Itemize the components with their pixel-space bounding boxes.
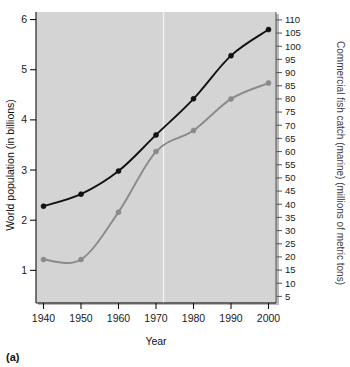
x-tick-label: 2000 (257, 312, 281, 324)
y-axis-title: World population (in billions) (4, 99, 16, 231)
y2-tick-label: 60 (285, 146, 296, 157)
data-point-marker (191, 96, 196, 101)
x-tick-label: 1980 (182, 312, 206, 324)
data-point-marker (79, 257, 84, 262)
x-tick-label: 1970 (144, 312, 168, 324)
left-axis: 123456 (21, 13, 36, 276)
x-tick-label: 1950 (69, 312, 93, 324)
data-point-marker (41, 257, 46, 262)
y-tick-label: 3 (21, 164, 27, 176)
plot-area-background (36, 12, 276, 302)
y2-tick-label: 75 (285, 106, 296, 117)
y2-tick-label: 40 (285, 199, 296, 210)
y-tick-label: 6 (21, 13, 27, 25)
y-tick-label: 1 (21, 264, 27, 276)
data-point-marker (116, 169, 121, 174)
y2-tick-label: 70 (285, 120, 296, 131)
y2-tick-label: 50 (285, 172, 296, 183)
data-point-marker (79, 192, 84, 197)
y2-tick-label: 65 (285, 133, 296, 144)
y-tick-label: 2 (21, 214, 27, 226)
y2-axis-title: Commercial fish catch (marine) (millions… (335, 41, 346, 285)
x-axis: 1940195019601970198019902000 (32, 303, 281, 324)
figure-panel-a: 123456 510152025303540455055606570758085… (0, 0, 350, 367)
data-point-marker (229, 96, 234, 101)
y2-tick-label: 95 (285, 54, 296, 65)
y-tick-label: 4 (21, 113, 27, 125)
y2-tick-label: 25 (285, 238, 296, 249)
y2-tick-label: 105 (285, 27, 301, 38)
data-point-marker (229, 53, 234, 58)
x-tick-label: 1940 (32, 312, 56, 324)
y2-tick-label: 80 (285, 93, 296, 104)
data-point-marker (266, 81, 271, 86)
y2-tick-label: 55 (285, 159, 296, 170)
y2-tick-label: 100 (285, 41, 301, 52)
data-point-marker (41, 204, 46, 209)
line-chart: 123456 510152025303540455055606570758085… (0, 0, 350, 367)
y2-tick-label: 110 (285, 14, 300, 25)
y2-tick-label: 10 (285, 278, 296, 289)
data-point-marker (154, 149, 159, 154)
y2-tick-label: 35 (285, 212, 296, 223)
y2-tick-label: 5 (285, 291, 290, 302)
data-point-marker (154, 132, 159, 137)
y-tick-label: 5 (21, 63, 27, 75)
y2-tick-label: 90 (285, 67, 296, 78)
y2-tick-label: 45 (285, 185, 296, 196)
x-tick-label: 1990 (219, 312, 243, 324)
y2-tick-label: 20 (285, 251, 296, 262)
y2-tick-label: 15 (285, 264, 296, 275)
panel-label: (a) (6, 351, 20, 363)
data-point-marker (191, 128, 196, 133)
x-tick-label: 1960 (107, 312, 131, 324)
y2-tick-label: 85 (285, 80, 296, 91)
data-point-marker (116, 210, 121, 215)
x-axis-title: Year (145, 335, 167, 347)
y2-tick-label: 30 (285, 225, 296, 236)
right-axis: 5101520253035404550556065707580859095100… (276, 14, 301, 302)
data-point-marker (266, 27, 271, 32)
